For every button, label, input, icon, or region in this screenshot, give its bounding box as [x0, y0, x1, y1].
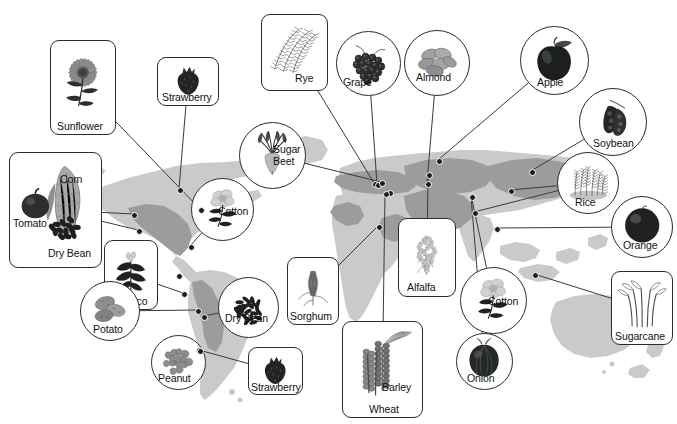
map-node-almond[interactable] — [425, 181, 432, 188]
crop-origins-figure: Sunflower Strawberry Rye — [0, 0, 677, 424]
callout-label-dry-bean-sa: Dry Bean — [225, 313, 268, 324]
map-node-onion[interactable] — [469, 194, 476, 201]
callout-label-grape: Grape — [343, 77, 372, 88]
callout-label-sugarcane: Sugarcane — [615, 331, 665, 342]
callout-soybean[interactable]: Soybean — [579, 88, 647, 156]
map-node-rice-b[interactable] — [508, 188, 515, 195]
map-node-sugarbeet[interactable] — [379, 180, 386, 187]
map-node-apple[interactable] — [436, 158, 443, 165]
callout-label-cotton-am: Cotton — [218, 206, 248, 217]
map-node-strawberry-sa[interactable] — [197, 348, 204, 355]
callout-sorghum[interactable]: Sorghum — [287, 257, 339, 325]
callout-label-rice: Rice — [575, 197, 596, 208]
callout-onion[interactable]: Onion — [456, 333, 513, 390]
map-node-sunflower[interactable] — [198, 207, 205, 214]
callout-label-corn-group: Corn — [60, 174, 82, 185]
callout-wheat-barley[interactable]: BarleyWheat — [342, 321, 423, 418]
callout-label-corn-group-extra-1: Dry Bean — [48, 248, 91, 259]
callout-cotton-asia[interactable]: Cotton — [460, 267, 527, 334]
callout-label-strawberry-sa: Strawberry — [251, 382, 301, 393]
sorghum-icon — [292, 262, 334, 313]
callout-sunflower[interactable]: Sunflower — [50, 40, 116, 135]
map-node-tobacco-a[interactable] — [176, 273, 183, 280]
callout-peanut[interactable]: Peanut — [151, 335, 206, 390]
map-node-potato-a[interactable] — [195, 308, 202, 315]
callout-label-sunflower: Sunflower — [57, 121, 103, 132]
rye-icon — [267, 20, 322, 79]
callout-strawberry-na[interactable]: Strawberry — [157, 57, 219, 106]
map-node-soybean[interactable] — [529, 169, 536, 176]
sugarcane-icon — [617, 276, 667, 332]
callout-sugarcane[interactable]: Sugarcane — [611, 271, 673, 345]
callout-label-cotton-asia: Cotton — [488, 296, 518, 307]
map-node-corn-b[interactable] — [136, 228, 143, 235]
callout-rice[interactable]: Rice — [557, 152, 619, 214]
callout-label-peanut: Peanut — [158, 373, 191, 384]
callout-grape[interactable]: Grape — [336, 31, 401, 96]
callout-label-corn-group-extra-0: Tomato — [13, 218, 47, 229]
map-node-cotton-am[interactable] — [188, 244, 195, 251]
map-node-strawberry-na[interactable] — [177, 187, 184, 194]
callout-label-orange: Orange — [623, 240, 657, 251]
callout-label-onion: Onion — [467, 373, 495, 384]
callout-label-wheat-barley: Barley — [382, 382, 411, 393]
callout-label-apple: Apple — [537, 77, 563, 88]
callout-potato[interactable]: Potato — [80, 281, 140, 341]
callout-apple[interactable]: Apple — [520, 26, 589, 95]
map-node-rice-a[interactable] — [472, 210, 479, 217]
callout-rye[interactable]: Rye — [261, 14, 328, 91]
map-node-drybean-sa[interactable] — [201, 314, 208, 321]
callout-label-wheat-barley-extra-0: Wheat — [369, 404, 399, 415]
map-node-barley[interactable] — [383, 191, 390, 198]
map-node-corn-a[interactable] — [131, 212, 138, 219]
map-node-tobacco-b[interactable] — [181, 291, 188, 298]
map-node-sugarcane[interactable] — [532, 272, 539, 279]
callout-label-potato: Potato — [93, 324, 123, 335]
callout-corn-group[interactable]: CornTomatoDry Bean — [9, 152, 102, 268]
callout-label-almond: Almond — [416, 72, 451, 83]
callout-label-soybean: Soybean — [593, 138, 634, 149]
callout-dry-bean-sa[interactable]: Dry Bean — [218, 277, 279, 338]
alfalfa-icon — [403, 224, 450, 284]
callout-label-sugar-beet: Sugar Beet — [273, 144, 306, 167]
callout-alfalfa[interactable]: Alfalfa — [398, 218, 456, 297]
callout-almond[interactable]: Almond — [404, 30, 470, 96]
map-node-alfalfa[interactable] — [426, 172, 433, 179]
sunflower-icon — [56, 47, 110, 120]
callout-sugar-beet[interactable]: Sugar Beet — [239, 122, 306, 189]
callout-label-alfalfa: Alfalfa — [407, 282, 435, 293]
callout-label-sorghum: Sorghum — [290, 311, 332, 322]
callout-label-rye: Rye — [295, 73, 313, 84]
map-node-sorghum[interactable] — [376, 224, 383, 231]
callout-strawberry-sa[interactable]: Strawberry — [248, 347, 303, 395]
callout-label-strawberry-na: Strawberry — [162, 92, 212, 103]
callout-orange[interactable]: Orange — [611, 196, 673, 258]
map-node-orange[interactable] — [494, 226, 501, 233]
